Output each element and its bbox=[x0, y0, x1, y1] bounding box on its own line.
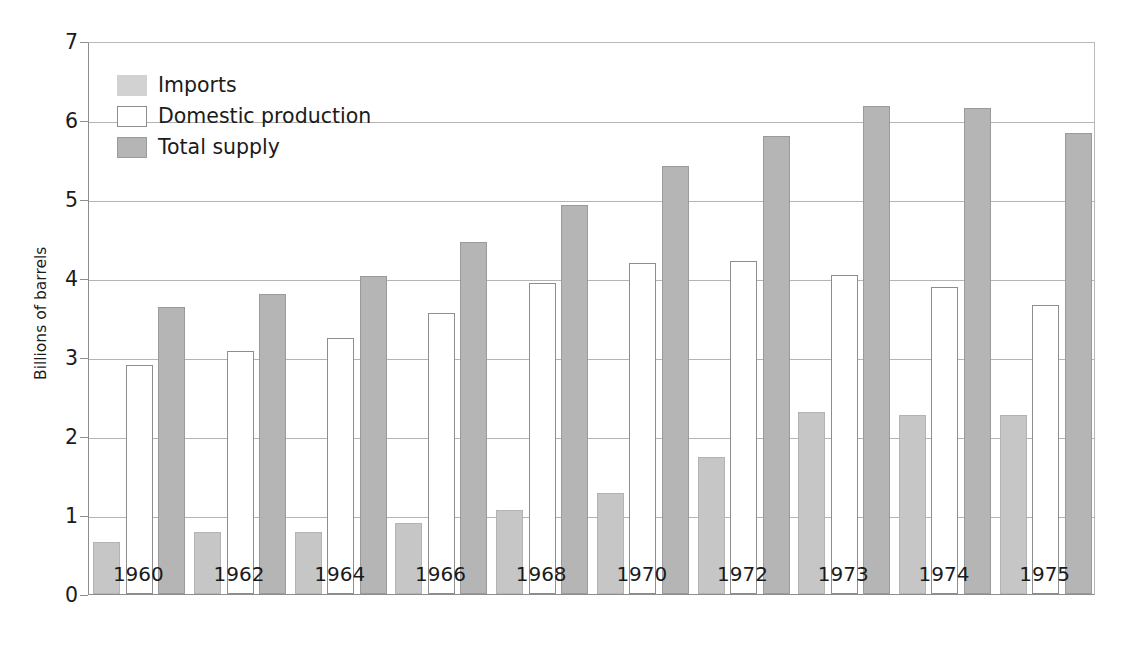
bar-domestic-1975 bbox=[1032, 305, 1059, 594]
y-axis-tick-mark bbox=[80, 516, 88, 517]
bar-domestic-1960 bbox=[126, 365, 153, 594]
legend-item-total-supply: Total supply bbox=[117, 132, 371, 163]
bar-total-1972 bbox=[763, 136, 790, 594]
y-axis-tick-label: 5 bbox=[40, 188, 78, 212]
x-axis-tick-label: 1964 bbox=[314, 562, 365, 586]
x-axis-tick-label: 1975 bbox=[1019, 562, 1070, 586]
bar-domestic-1962 bbox=[227, 351, 254, 594]
plot-area: Imports Domestic production Total supply bbox=[88, 42, 1095, 595]
y-axis-tick-mark bbox=[80, 358, 88, 359]
bar-total-1966 bbox=[460, 242, 487, 594]
legend-label-imports: Imports bbox=[158, 75, 237, 96]
y-axis-tick-label: 0 bbox=[40, 583, 78, 607]
bar-total-1970 bbox=[662, 166, 689, 594]
x-axis-tick-label: 1974 bbox=[918, 562, 969, 586]
y-axis-tick-label: 1 bbox=[40, 504, 78, 528]
gridline bbox=[89, 201, 1094, 202]
legend: Imports Domestic production Total supply bbox=[117, 70, 371, 163]
legend-swatch-imports-icon bbox=[117, 75, 147, 96]
bar-domestic-1964 bbox=[327, 338, 354, 594]
bar-domestic-1974 bbox=[931, 287, 958, 594]
bar-total-1975 bbox=[1065, 133, 1092, 594]
y-axis-tick-label: 2 bbox=[40, 425, 78, 449]
bar-domestic-1970 bbox=[629, 263, 656, 594]
legend-swatch-total-supply-icon bbox=[117, 137, 147, 158]
x-axis-tick-label: 1970 bbox=[616, 562, 667, 586]
y-axis-tick-mark bbox=[80, 200, 88, 201]
y-axis-tick-mark bbox=[80, 42, 88, 43]
legend-swatch-domestic-production-icon bbox=[117, 106, 147, 127]
gridline bbox=[89, 280, 1094, 281]
legend-item-domestic-production: Domestic production bbox=[117, 101, 371, 132]
x-axis-tick-label: 1960 bbox=[113, 562, 164, 586]
y-axis-tick-mark bbox=[80, 279, 88, 280]
grouped-bar-chart: Billions of barrels 01234567 Imports Dom… bbox=[0, 0, 1133, 653]
bar-total-1974 bbox=[964, 108, 991, 594]
bar-total-1973 bbox=[863, 106, 890, 594]
y-axis-tick-mark bbox=[80, 437, 88, 438]
bar-domestic-1973 bbox=[831, 275, 858, 594]
y-axis-tick-label: 6 bbox=[40, 109, 78, 133]
bar-domestic-1972 bbox=[730, 261, 757, 594]
bar-domestic-1966 bbox=[428, 313, 455, 594]
legend-label-domestic-production: Domestic production bbox=[158, 106, 371, 127]
x-axis-tick-label: 1972 bbox=[717, 562, 768, 586]
x-axis-tick-label: 1966 bbox=[415, 562, 466, 586]
x-axis-tick-label: 1968 bbox=[516, 562, 567, 586]
legend-item-imports: Imports bbox=[117, 70, 371, 101]
x-axis-tick-label: 1962 bbox=[214, 562, 265, 586]
bar-total-1964 bbox=[360, 276, 387, 594]
y-axis-tick-label: 7 bbox=[40, 30, 78, 54]
bar-total-1968 bbox=[561, 205, 588, 594]
legend-label-total-supply: Total supply bbox=[158, 137, 280, 158]
y-axis-tick-mark bbox=[80, 595, 88, 596]
y-axis-tick-label: 4 bbox=[40, 267, 78, 291]
bar-domestic-1968 bbox=[529, 283, 556, 594]
bar-total-1962 bbox=[259, 294, 286, 594]
y-axis-tick-mark bbox=[80, 121, 88, 122]
x-axis-tick-label: 1973 bbox=[818, 562, 869, 586]
y-axis-tick-label: 3 bbox=[40, 346, 78, 370]
bar-total-1960 bbox=[158, 307, 185, 594]
